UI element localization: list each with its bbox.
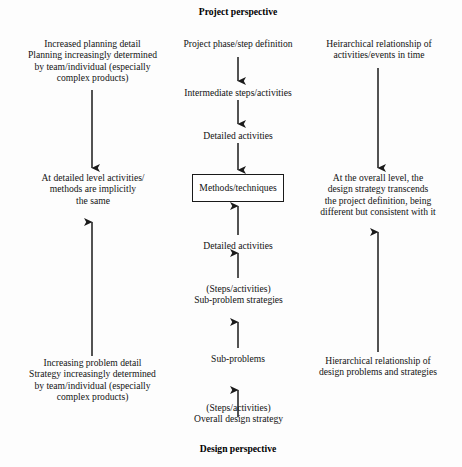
- left-bottom-note: Increasing problem detail Strategy incre…: [6, 357, 179, 403]
- right-middle-note: At the overall level, the design strateg…: [297, 172, 459, 218]
- node-intermediate-steps-activities: Intermediate steps/activities: [163, 87, 313, 98]
- left-middle-note: At detailed level activities/ methods ar…: [14, 172, 172, 206]
- left-top-note: Increased planning detail Planning incre…: [6, 38, 179, 84]
- node-detailed-activities-upper: Detailed activities: [178, 130, 298, 141]
- node-sub-problems: Sub-problems: [183, 353, 293, 364]
- right-bottom-note: Hierarchical relationship of design prob…: [297, 355, 459, 378]
- node-methods-techniques: Methods/techniques: [192, 174, 284, 202]
- process-diagram: Project perspective Design perspective P…: [0, 0, 462, 467]
- node-detailed-activities-lower: Detailed activities: [178, 240, 298, 251]
- node-overall-design-strategy: (Steps/activities) Overall design strate…: [166, 402, 311, 425]
- right-top-note: Heirarchical relationship of activities/…: [300, 38, 458, 61]
- node-project-phase-step-definition: Project phase/step definition: [163, 38, 313, 49]
- design-perspective-title: Design perspective: [168, 443, 308, 455]
- project-perspective-title: Project perspective: [168, 6, 308, 18]
- node-sub-problem-strategies: (Steps/activities) Sub-problem strategie…: [166, 283, 311, 306]
